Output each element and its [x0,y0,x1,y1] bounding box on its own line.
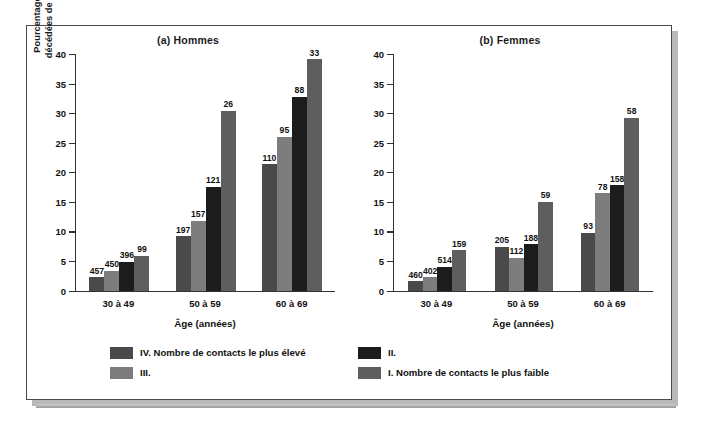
legend-swatch-iv [110,347,133,359]
bar-value-label: 95 [280,125,290,135]
bar[interactable]: 95 [277,137,292,291]
bar-group: 937815858 [581,54,639,291]
bar[interactable]: 59 [538,202,553,291]
bar-value-label: 158 [610,174,624,184]
bar[interactable]: 460 [408,281,423,290]
y-axis-tick [387,231,393,232]
legend-swatch-i [358,367,381,379]
bar[interactable]: 121 [206,187,221,291]
panel-title-femmes: (b) Femmes [349,34,671,46]
bar-value-label: 99 [137,244,147,254]
bar-group: 460402514159 [408,54,466,291]
bar-groups-femmes: 46040251415920511218859937815858 [394,54,653,291]
x-axis-label-femmes: Âge (années) [393,318,653,329]
y-axis-tick-label: 30 [373,108,384,119]
y-axis-tick [69,54,75,55]
y-axis-tick-label: 5 [379,256,384,267]
y-axis-tick [69,202,75,203]
y-axis-label-hommes: Pourcentage de personnes décédées de div… [31,0,55,88]
bar[interactable]: 26 [221,111,236,291]
x-axis-line [75,291,335,292]
legend-item-iii[interactable]: III. [110,366,358,379]
chart-panel-hommes: (a) Hommes Pourcentage de personnes décé… [27,26,349,336]
bar[interactable]: 450 [104,271,119,291]
y-axis-tick-label: 25 [55,137,66,148]
bar[interactable]: 99 [134,256,149,291]
y-axis-tick-label: 30 [55,108,66,119]
x-axis-line [393,291,653,292]
bar[interactable]: 110 [262,164,277,291]
bar-value-label: 88 [295,85,305,95]
bar[interactable]: 78 [595,193,610,291]
bar-group: 45745039699 [89,54,149,291]
y-axis-tick-label: 15 [55,196,66,207]
y-axis-tick-label: 40 [55,49,66,60]
y-axis-tick-label: 15 [373,196,384,207]
bar[interactable]: 58 [624,118,639,291]
y-axis-tick-label: 0 [379,285,384,296]
bar-value-label: 514 [438,255,452,265]
bar-value-label: 78 [598,182,608,192]
bar[interactable]: 188 [524,244,539,290]
bar-group: 19715712126 [176,54,236,291]
bar-value-label: 33 [310,48,320,58]
bar-value-label: 460 [409,270,423,280]
y-axis-tick [387,113,393,114]
bar[interactable]: 159 [452,250,467,290]
figure-frame: (a) Hommes Pourcentage de personnes décé… [26,25,672,400]
bar-groups-hommes: 4574503969919715712126110958833 [76,54,335,291]
y-axis-tick-label: 10 [55,226,66,237]
bar[interactable]: 158 [610,185,625,290]
y-axis-tick [387,143,393,144]
y-axis-tick [387,261,393,262]
bar[interactable]: 457 [89,277,104,291]
legend-column-right: II. I. Nombre de contacts le plus faible [358,346,588,394]
bar-value-label: 112 [510,246,524,256]
legend-swatch-ii [358,347,381,359]
panel-title-hommes: (a) Hommes [27,34,349,46]
bar[interactable]: 93 [581,233,596,291]
y-axis-tick [69,143,75,144]
bar[interactable]: 112 [509,258,524,291]
plot-area-hommes: 0510152025303540 45745039699197157121261… [75,54,335,292]
bar[interactable]: 205 [495,247,510,291]
bar-group: 110958833 [262,54,322,291]
bar-value-label: 157 [191,209,205,219]
x-axis-label-hommes: Âge (années) [75,318,335,329]
bar[interactable]: 33 [307,59,322,290]
chart-legend: IV. Nombre de contacts le plus élevé III… [27,346,671,394]
bar-value-label: 58 [627,106,637,116]
legend-item-i[interactable]: I. Nombre de contacts le plus faible [358,366,588,379]
legend-item-iv[interactable]: IV. Nombre de contacts le plus élevé [110,346,358,359]
bar-value-label: 159 [452,239,466,249]
bar-value-label: 205 [495,235,509,245]
y-axis-tick [387,172,393,173]
y-axis-tick [387,202,393,203]
legend-item-ii[interactable]: II. [358,346,588,359]
bar[interactable]: 402 [423,277,438,291]
bar[interactable]: 514 [437,267,452,291]
chart-panel-femmes: (b) Femmes 0510152025303540 460402514159… [349,26,671,336]
x-axis-categories-hommes: 30 à 4950 à 5960 à 69 [75,298,335,309]
y-axis-tick [387,291,393,292]
bar[interactable]: 88 [292,97,307,291]
y-axis-tick-label: 35 [55,78,66,89]
bar-value-label: 93 [583,221,593,231]
x-axis-categories-femmes: 30 à 4950 à 5960 à 69 [393,298,653,309]
x-axis-category-label: 50 à 59 [507,298,539,309]
y-axis-tick [387,84,393,85]
bar-group: 20511218859 [495,54,553,291]
y-axis-tick [69,291,75,292]
legend-label-ii: II. [388,347,396,358]
bar-value-label: 197 [176,225,190,235]
legend-column-left: IV. Nombre de contacts le plus élevé III… [110,346,358,394]
bar[interactable]: 396 [119,262,134,291]
legend-label-iii: III. [140,367,151,378]
y-axis-tick [69,261,75,262]
legend-label-iv: IV. Nombre de contacts le plus élevé [140,347,305,358]
bar[interactable]: 157 [191,221,206,291]
bar[interactable]: 197 [176,236,191,290]
y-axis-tick [69,172,75,173]
y-axis-tick-label: 40 [373,49,384,60]
bar-value-label: 396 [120,250,134,260]
